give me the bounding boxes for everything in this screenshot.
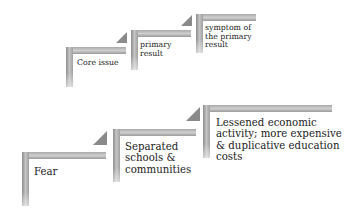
- step-bar-vertical: [203, 105, 210, 158]
- up-arrow-icon: [93, 131, 107, 145]
- up-arrow-icon: [181, 15, 192, 26]
- step-bar-horizontal: [131, 30, 191, 37]
- step-bar-vertical: [66, 47, 73, 87]
- step-label-separated: Separated schools & communities: [125, 141, 191, 175]
- step-label-core-issue: Core issue: [77, 59, 119, 68]
- up-arrow-icon: [116, 32, 127, 43]
- step-bar-vertical: [113, 129, 120, 182]
- step-label-primary-result: primary result: [140, 41, 171, 58]
- step-bar-horizontal: [113, 129, 196, 136]
- step-bar-horizontal: [203, 105, 332, 112]
- step-bar-horizontal: [22, 152, 106, 159]
- step-label-symptom: symptom of the primary result: [205, 24, 252, 50]
- step-bar-vertical: [131, 30, 138, 70]
- step-bar-horizontal: [196, 14, 256, 21]
- step-bar-horizontal: [66, 47, 126, 54]
- step-label-fear: Fear: [34, 166, 57, 177]
- step-bar-vertical: [196, 14, 203, 53]
- step-bar-vertical: [22, 152, 29, 206]
- step-label-lessened: Lessened economic activity; more expensi…: [216, 117, 342, 163]
- up-arrow-icon: [186, 107, 200, 121]
